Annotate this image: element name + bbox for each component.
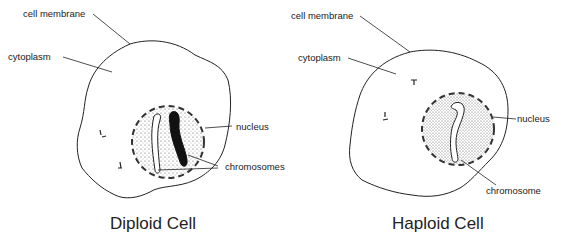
organelle-mark xyxy=(411,80,417,85)
title-diploid-cell: Diploid Cell xyxy=(110,215,196,232)
label-nucleus-haploid: nucleus xyxy=(517,114,550,124)
organelle-mark xyxy=(383,112,388,120)
haploid-cell xyxy=(348,16,516,196)
label-cytoplasm-haploid: cytoplasm xyxy=(298,53,341,63)
title-haploid-cell: Haploid Cell xyxy=(392,215,484,232)
label-cytoplasm-diploid: cytoplasm xyxy=(8,52,51,62)
label-cell-membrane-diploid: cell membrane xyxy=(23,9,85,19)
diploid-nucleus xyxy=(132,106,204,178)
organelle-mark xyxy=(100,130,106,137)
label-chromosomes-diploid: chromosomes xyxy=(225,162,285,172)
organelle-mark xyxy=(118,162,122,168)
label-nucleus-diploid: nucleus xyxy=(236,122,269,132)
diagram-canvas xyxy=(0,0,561,244)
label-chromosome-haploid: chromosome xyxy=(486,186,541,196)
label-cell-membrane-haploid: cell membrane xyxy=(291,11,353,21)
diploid-cell xyxy=(63,14,232,198)
